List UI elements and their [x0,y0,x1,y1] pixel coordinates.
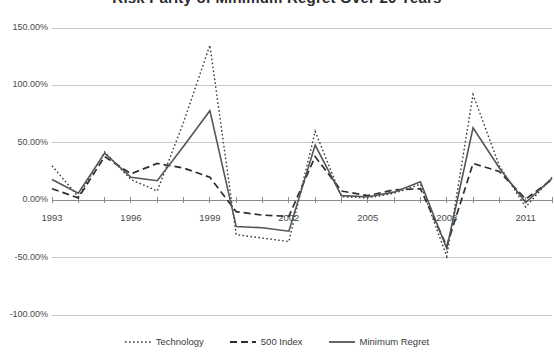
legend-swatch-dashed [230,338,256,346]
x-axis-tick-label: 2005 [357,212,378,223]
series-line-500-index [52,157,552,247]
legend-label: Minimum Regret [360,336,430,347]
series-lines [52,45,552,256]
legend-swatch-dotted [125,338,151,346]
y-axis-tick-label: 100.00% [0,79,48,89]
plot-svg [52,28,552,315]
y-axis-tick-label: 150.00% [0,22,48,32]
y-axis-tick-label: 50.00% [0,137,48,147]
plot-area [52,28,552,315]
chart-container: Risk Parity of Minimum Regret Over 20 Ye… [0,0,554,356]
y-axis-tick-label: 0.00% [0,194,48,204]
legend-item-minimum-regret[interactable]: Minimum Regret [329,336,430,347]
chart-legend: Technology500 IndexMinimum Regret [0,336,554,347]
x-axis-tick-label: 1993 [41,212,62,223]
legend-item-technology[interactable]: Technology [125,336,204,347]
series-line-technology [52,45,552,256]
chart-title: Risk Parity of Minimum Regret Over 20 Ye… [0,0,554,6]
y-axis-tick-label: -100.00% [0,309,48,319]
y-axis-tick-label: -50.00% [0,252,48,262]
x-axis-tick-label: 1999 [199,212,220,223]
legend-label: 500 Index [261,336,303,347]
x-axis-tick-label: 2008 [436,212,457,223]
legend-swatch-solid [329,338,355,346]
x-axis-tick-label: 1996 [120,212,141,223]
legend-label: Technology [156,336,204,347]
legend-item-500-index[interactable]: 500 Index [230,336,303,347]
x-axis-tick-label: 2002 [278,212,299,223]
x-axis-tick-label: 2011 [515,212,535,223]
series-line-minimum-regret [52,111,552,249]
